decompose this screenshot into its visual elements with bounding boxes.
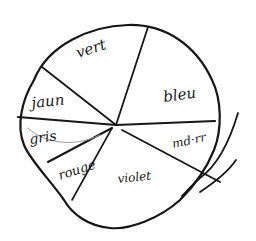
pie-outline <box>20 25 219 228</box>
divider-top <box>116 27 148 125</box>
label-jaune: jaun <box>28 91 66 113</box>
label-gris: gris <box>28 127 57 147</box>
divider-left <box>18 117 116 125</box>
label-marron: md·rr <box>171 130 209 151</box>
label-violet: violet <box>117 169 152 186</box>
divider-right <box>116 121 215 125</box>
label-rouge: rouge <box>56 157 97 183</box>
label-bleu: bleu <box>162 84 197 106</box>
label-vert: vert <box>74 35 110 62</box>
stray-curve <box>182 113 238 196</box>
stray-tick <box>200 160 236 192</box>
pie-chart-sketch: vert bleu jaun gris rouge violet md·rr <box>0 0 256 241</box>
